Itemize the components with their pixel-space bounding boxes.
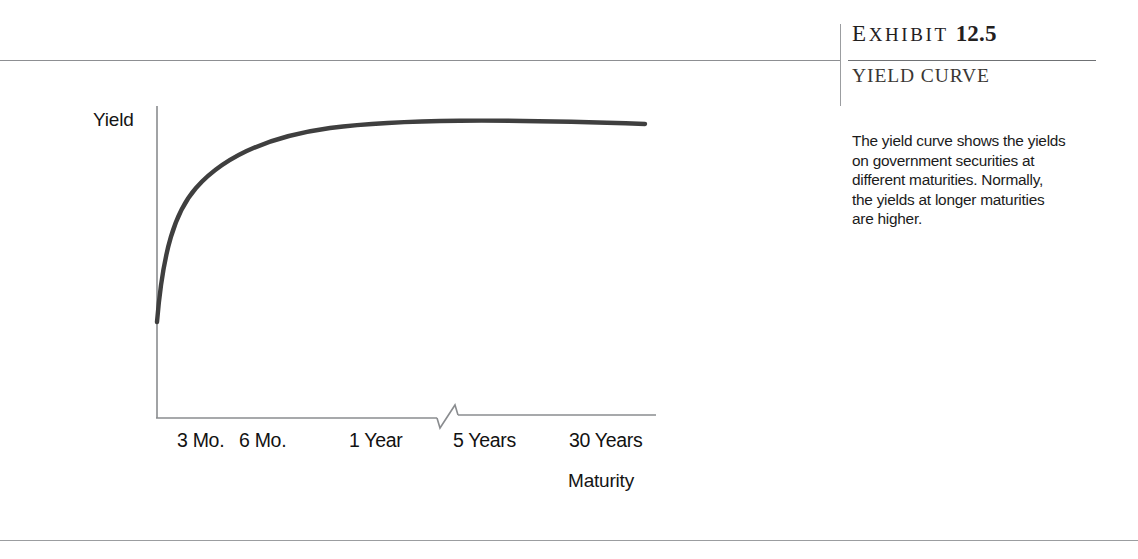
exhibit-heading: Exhibit12.5 bbox=[852, 22, 1122, 51]
x-tick-label-30-years: 30 Years bbox=[569, 429, 643, 452]
exhibit-page: Yield Maturity 3 Mo. 6 Mo. 1 Year 5 Year… bbox=[0, 0, 1138, 559]
yield-curve-line bbox=[157, 121, 645, 322]
exhibit-label-initial: E bbox=[852, 21, 869, 46]
x-tick-label-1-year: 1 Year bbox=[349, 429, 403, 452]
exhibit-number: 12.5 bbox=[956, 21, 997, 46]
exhibit-label: Exhibit bbox=[852, 24, 949, 45]
x-tick-label-5-years: 5 Years bbox=[453, 429, 516, 452]
x-tick-label-6-mo: 6 Mo. bbox=[239, 429, 286, 452]
y-axis-title: Yield bbox=[93, 109, 134, 131]
exhibit-caption-panel: Exhibit12.5 YIELD CURVE bbox=[852, 22, 1122, 87]
yield-curve-chart: Yield Maturity 3 Mo. 6 Mo. 1 Year 5 Year… bbox=[0, 0, 840, 559]
chart-svg bbox=[0, 0, 840, 559]
x-axis-title: Maturity bbox=[568, 470, 634, 492]
exhibit-label-rest: xhibit bbox=[869, 24, 949, 45]
x-axis-break-icon bbox=[437, 405, 458, 428]
panel-divider bbox=[840, 24, 841, 106]
x-tick-label-3-mo: 3 Mo. bbox=[177, 429, 224, 452]
exhibit-description: The yield curve shows the yields on gove… bbox=[852, 131, 1067, 229]
exhibit-title: YIELD CURVE bbox=[852, 65, 1122, 87]
